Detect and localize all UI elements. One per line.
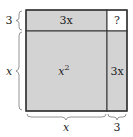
left-bottom-brace-label: x [6, 65, 13, 78]
left-top-brace [16, 11, 22, 30]
bottom-left-brace [27, 114, 106, 120]
bottom-right-brace-label: 3 [114, 121, 121, 134]
right-strip-label: 3x [110, 65, 124, 78]
left-top-brace-label: 3 [6, 14, 13, 27]
bottom-right-brace [108, 114, 126, 120]
bottom-left-brace-label: x [63, 121, 70, 134]
corner-label: ? [114, 14, 120, 27]
completing-square-diagram: 3x ? x2 3x 3 x x 3 [0, 0, 133, 137]
left-bottom-brace [16, 32, 22, 110]
top-strip-label: 3x [59, 14, 73, 27]
